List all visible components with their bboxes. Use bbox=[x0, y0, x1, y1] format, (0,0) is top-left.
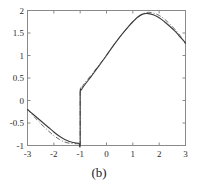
plot-frame bbox=[28, 11, 186, 146]
x-tick-label: 3 bbox=[183, 149, 188, 159]
figure-panel: -3-2-10123 -1-0.500.511.52 (b) bbox=[0, 0, 198, 186]
y-tick-label: -1 bbox=[17, 141, 25, 151]
x-tick-label: 0 bbox=[104, 149, 109, 159]
series-layer bbox=[28, 12, 186, 147]
y-tick-label: 2 bbox=[20, 6, 25, 16]
y-tick-label: 0.5 bbox=[13, 73, 25, 83]
x-tick-label: -2 bbox=[50, 149, 58, 159]
x-tick-label: -1 bbox=[76, 149, 84, 159]
y-tick-label: 1.5 bbox=[13, 28, 25, 38]
y-tick-label: 1 bbox=[20, 51, 25, 61]
y-tick-labels: -1-0.500.511.52 bbox=[10, 6, 25, 151]
y-tick-label: -0.5 bbox=[10, 118, 25, 128]
series-dash-dot-curve bbox=[28, 12, 186, 147]
x-tick-marks bbox=[28, 11, 186, 146]
x-tick-label: 2 bbox=[157, 149, 162, 159]
x-tick-labels: -3-2-10123 bbox=[24, 149, 189, 159]
axes-border bbox=[28, 11, 186, 146]
y-tick-label: 0 bbox=[20, 96, 25, 106]
line-chart: -3-2-10123 -1-0.500.511.52 (b) bbox=[0, 0, 198, 186]
x-tick-label: -3 bbox=[24, 149, 32, 159]
x-tick-label: 1 bbox=[131, 149, 136, 159]
figure-caption: (b) bbox=[91, 165, 106, 180]
y-tick-marks bbox=[28, 11, 186, 146]
series-solid-curve bbox=[28, 13, 186, 146]
